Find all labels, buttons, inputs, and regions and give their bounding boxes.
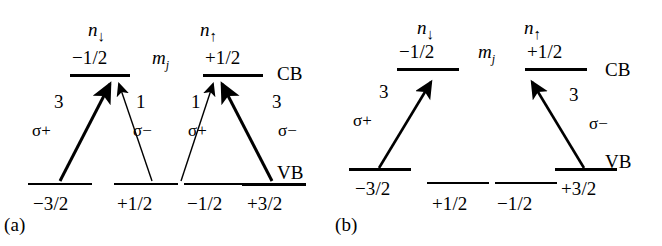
panel-a-n-up-label: n↑ — [200, 20, 217, 44]
panel-b-n-down-label: n↓ — [417, 18, 434, 42]
panel-a-polarization-2: σ− — [133, 122, 152, 139]
panel-a-cb-level-label-up: +1/2 — [205, 48, 240, 67]
panel-b-strength-2: 3 — [569, 85, 579, 104]
figure-root: n↓ n↑ −1/2 mj +1/2 CB VB 3 1 1 3 σ+ σ− σ… — [0, 0, 662, 246]
panel-b-cb-level-line-down — [397, 68, 459, 71]
arrow-a-sigma-minus-strong — [222, 84, 272, 181]
panel-b-n-up-label: n↑ — [524, 18, 541, 42]
panel-b: n↓ n↑ −1/2 mj +1/2 CB VB 3 3 σ+ σ− −3/2 … — [331, 0, 662, 246]
panel-a-polarization-3: σ+ — [188, 122, 207, 139]
panel-b-cb-level-label-down: −1/2 — [399, 42, 434, 61]
panel-a-polarization-4: σ− — [278, 122, 297, 139]
panel-a-vb-level-label-2: +1/2 — [117, 194, 152, 213]
panel-a-vb-level-label-1: −3/2 — [33, 194, 68, 213]
panel-a-strength-4: 3 — [272, 92, 282, 111]
panel-b-vb-level-line-4 — [555, 168, 617, 171]
panel-a-vb-level-line-4 — [242, 183, 306, 186]
panel-a-vb-level-label-3: −1/2 — [187, 194, 222, 213]
panel-a-vb-level-line-3 — [184, 183, 248, 185]
panel-a-vb-level-label-4: +3/2 — [247, 194, 282, 213]
panel-b-vb-level-line-3 — [495, 182, 557, 184]
panel-a-vb-level-line-2 — [114, 183, 178, 185]
panel-a-caption: (a) — [4, 215, 25, 234]
panel-a-cb-level-line-down — [70, 74, 130, 77]
panel-b-cb-level-line-up — [525, 68, 587, 71]
panel-b-vb-level-label-3: −1/2 — [497, 194, 532, 213]
panel-a-mj-label: mj — [152, 48, 169, 71]
panel-a: n↓ n↑ −1/2 mj +1/2 CB VB 3 1 1 3 σ+ σ− σ… — [0, 0, 331, 246]
panel-b-polarization-1: σ+ — [353, 112, 372, 129]
panel-a-strength-2: 1 — [136, 92, 146, 111]
panel-b-mj-label: mj — [478, 42, 495, 65]
panel-b-vb-level-label-1: −3/2 — [355, 179, 390, 198]
panel-a-strength-1: 3 — [54, 92, 64, 111]
panel-a-n-down-label: n↓ — [88, 20, 105, 44]
panel-a-vb-level-line-1 — [28, 183, 92, 185]
panel-b-vb-level-line-1 — [349, 168, 411, 171]
panel-b-vb-level-label-2: +1/2 — [432, 194, 467, 213]
panel-a-cb-level-line-up — [203, 74, 263, 77]
panel-b-caption: (b) — [335, 215, 357, 234]
panel-b-cb-band-label: CB — [605, 60, 631, 79]
panel-b-strength-1: 3 — [379, 82, 389, 101]
panel-a-polarization-1: σ+ — [32, 122, 51, 139]
panel-b-cb-level-label-up: +1/2 — [527, 42, 562, 61]
panel-b-polarization-2: σ− — [589, 115, 608, 132]
panel-b-vb-level-label-4: +3/2 — [561, 179, 596, 198]
panel-a-cb-band-label: CB — [277, 64, 303, 83]
panel-a-cb-level-label-down: −1/2 — [72, 48, 107, 67]
panel-a-vb-band-label: VB — [277, 163, 304, 182]
arrow-a-sigma-plus-strong — [60, 84, 110, 181]
panel-b-vb-level-line-2 — [427, 182, 489, 184]
panel-a-strength-3: 1 — [191, 92, 201, 111]
